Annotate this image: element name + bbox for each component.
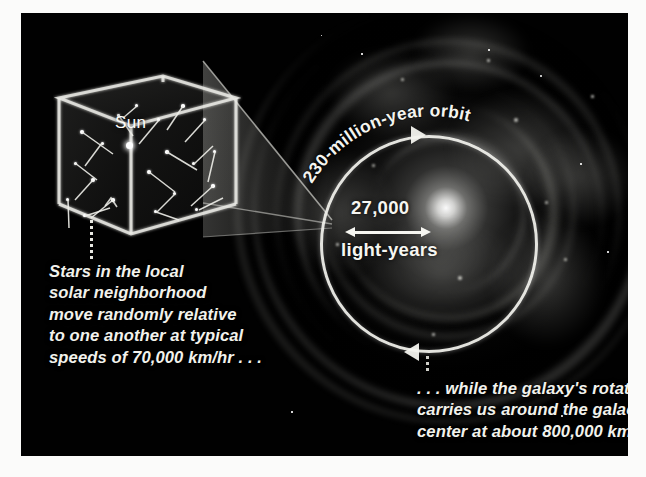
caption-left-line-2: solar neighborhood <box>49 282 299 303</box>
radius-double-arrow <box>345 227 431 237</box>
caption-left-line-3: move randomly relative <box>49 304 299 325</box>
caption-left-line-5: speeds of 70,000 km/hr . . . <box>49 347 299 368</box>
illustration-plate: 230-million-year orbit 27,000 light-year… <box>21 13 628 456</box>
orbit-caption-leader-line <box>426 356 429 374</box>
orbit-direction-arrow-bottom <box>404 343 419 361</box>
sun-marker <box>126 142 133 149</box>
caption-right: . . . while the galaxy's rotation carrie… <box>417 378 628 442</box>
sun-label: Sun <box>115 113 146 133</box>
caption-left-line-1: Stars in the local <box>49 261 299 282</box>
caption-right-line-1: . . . while the galaxy's rotation <box>417 378 628 399</box>
cube-caption-leader-line <box>90 220 93 262</box>
arrow-head-right <box>421 227 431 237</box>
local-solar-neighborhood-cube: Sun <box>53 58 243 243</box>
radius-value-label: 27,000 <box>351 197 409 219</box>
arrow-shaft <box>353 231 423 234</box>
caption-right-line-2: carries us around the galactic <box>417 399 628 420</box>
galactic-radius-measure: 27,000 light-years <box>343 199 453 261</box>
astronomy-diagram-figure: 230-million-year orbit 27,000 light-year… <box>0 0 646 477</box>
caption-right-line-3: center at about 800,000 km/hr. <box>417 421 628 442</box>
orbit-period-label: 230-million-year orbit <box>301 71 591 201</box>
orbit-label-text: 230-million-year orbit <box>298 100 473 186</box>
radius-unit-label: light-years <box>341 239 438 261</box>
svg-text:230-million-year orbit: 230-million-year orbit <box>298 100 473 186</box>
caption-left-line-4: to one another at typical <box>49 325 299 346</box>
caption-left: Stars in the local solar neighborhood mo… <box>49 261 299 368</box>
